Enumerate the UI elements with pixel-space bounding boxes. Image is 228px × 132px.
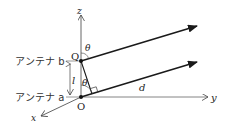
x-axis-label: x [31, 113, 36, 123]
antenna-b-label: アンテナ b [15, 56, 65, 67]
point-o-dot [79, 95, 83, 99]
point-o-label: O [77, 101, 85, 112]
length-l-label: l [72, 75, 75, 86]
point-q-label: Q [71, 51, 79, 62]
distance-d-label: d [139, 82, 145, 93]
theta-top-label: θ [85, 43, 91, 53]
antenna-diagram: アンテナ b アンテナ a Q O z y x θ θ l d [0, 0, 228, 132]
upper-ray-arrow [81, 26, 197, 61]
y-axis-label: y [210, 92, 217, 103]
point-q-dot [79, 59, 83, 63]
antenna-a-label: アンテナ a [15, 92, 64, 103]
theta-bottom-label: θ [82, 78, 88, 88]
z-axis-label: z [76, 6, 82, 16]
theta-arc-top [81, 53, 89, 59]
